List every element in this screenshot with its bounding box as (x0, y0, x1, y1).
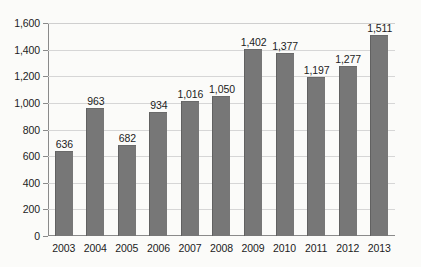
x-axis-label: 2013 (368, 242, 391, 254)
bar[interactable]: 1,377 (276, 53, 294, 236)
bar[interactable]: 682 (118, 145, 136, 236)
bar-value-label: 1,197 (304, 64, 330, 76)
y-axis-label: 1,200 (14, 70, 40, 82)
bar-value-label: 1,050 (209, 83, 235, 95)
x-axis-label: 2004 (84, 242, 107, 254)
y-axis-label: 800 (23, 124, 40, 136)
x-axis-label: 2010 (273, 242, 296, 254)
bar[interactable]: 1,277 (339, 66, 357, 236)
bar-slot: 6362003 (48, 23, 80, 236)
bar-slot: 9632004 (80, 23, 112, 236)
bar[interactable]: 1,197 (307, 77, 325, 236)
x-axis-label: 2009 (242, 242, 265, 254)
bar-value-label: 1,277 (335, 53, 361, 65)
bar-slot: 9342006 (143, 23, 175, 236)
x-axis-label: 2011 (305, 242, 327, 254)
bar-slot: 1,5112013 (363, 23, 395, 236)
x-axis-label: 2008 (210, 242, 233, 254)
x-axis-label: 2006 (147, 242, 170, 254)
bar[interactable]: 1,402 (244, 49, 262, 236)
bar[interactable]: 1,511 (370, 35, 388, 236)
bar[interactable]: 1,016 (181, 101, 199, 236)
x-axis-label: 2012 (336, 242, 359, 254)
x-axis-label: 2003 (52, 242, 75, 254)
bar-slot: 1,3772010 (269, 23, 301, 236)
bar-value-label: 1,377 (272, 40, 298, 52)
bar-value-label: 1,016 (178, 88, 204, 100)
bar[interactable]: 963 (86, 108, 104, 236)
bar-value-label: 934 (150, 99, 167, 111)
bar-slot: 1,1972011 (300, 23, 332, 236)
y-axis-label: 1,000 (14, 97, 40, 109)
x-axis-label: 2007 (178, 242, 201, 254)
bar[interactable]: 636 (55, 151, 73, 236)
y-axis-tick (43, 236, 48, 237)
plot-area: 02004006008001,0001,2001,4001,600 636200… (48, 23, 395, 236)
bar-slot: 1,0162007 (174, 23, 206, 236)
bar-value-label: 682 (119, 132, 136, 144)
y-axis-label: 600 (23, 150, 40, 162)
bar-slot: 1,4022009 (237, 23, 269, 236)
bar-value-label: 636 (56, 138, 73, 150)
bar-value-label: 1,402 (241, 36, 267, 48)
bar-slot: 6822005 (111, 23, 143, 236)
bar-value-label: 1,511 (367, 22, 392, 34)
bar-value-label: 963 (87, 95, 104, 107)
y-axis-label: 0 (34, 230, 40, 242)
y-axis-label: 1,600 (14, 17, 40, 29)
bar[interactable]: 1,050 (212, 96, 230, 236)
chart-figure: 02004006008001,0001,2001,4001,600 636200… (0, 0, 421, 267)
y-axis-label: 400 (23, 177, 40, 189)
bar[interactable]: 934 (149, 112, 167, 236)
bar-slot: 1,0502008 (206, 23, 238, 236)
y-axis-label: 200 (23, 203, 40, 215)
bar-slot: 1,2772012 (332, 23, 364, 236)
y-axis-label: 1,400 (14, 44, 40, 56)
x-axis-label: 2005 (115, 242, 138, 254)
